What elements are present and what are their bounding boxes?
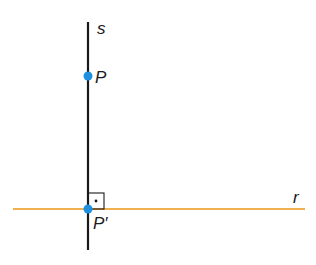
label-p-prime: P′ (93, 214, 108, 233)
label-r: r (293, 188, 300, 207)
perpendicular-diagram: s r P P′ (0, 0, 316, 265)
point-p-prime (84, 205, 93, 214)
label-s: s (97, 19, 106, 38)
point-p (84, 72, 93, 81)
label-p: P (95, 68, 107, 87)
right-angle-dot (95, 200, 98, 203)
